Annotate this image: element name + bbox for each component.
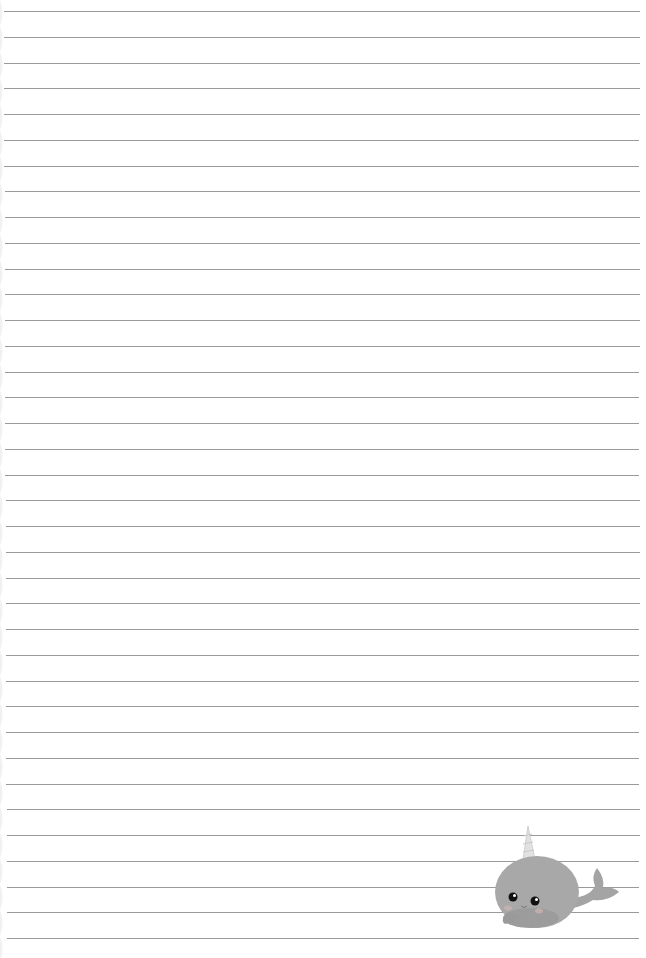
ruled-line	[6, 758, 639, 759]
narwhal-right-eye-icon	[531, 897, 540, 906]
ruled-line	[6, 629, 639, 630]
ruled-line	[4, 114, 640, 115]
narwhal-tail-icon	[573, 868, 619, 908]
ruled-line	[6, 526, 640, 527]
ruled-line	[7, 809, 640, 810]
ruled-line	[5, 243, 640, 244]
ruled-line	[6, 784, 639, 785]
ruled-line	[4, 11, 640, 12]
ruled-line	[5, 320, 640, 321]
ruled-lines	[0, 0, 646, 958]
ruled-line	[4, 63, 640, 64]
ruled-line	[4, 88, 640, 89]
ruled-line	[6, 552, 640, 553]
ruled-line	[5, 269, 640, 270]
ruled-line	[7, 938, 639, 939]
ruled-line	[4, 37, 640, 38]
narwhal-illustration	[495, 826, 625, 936]
ruled-line	[5, 397, 639, 398]
ruled-line	[4, 140, 639, 141]
ruled-line	[5, 475, 639, 476]
ruled-line	[5, 423, 639, 424]
ruled-line	[5, 217, 640, 218]
ruled-line	[4, 166, 639, 167]
ruled-line	[6, 578, 640, 579]
ruled-line	[6, 655, 639, 656]
ruled-line	[5, 191, 640, 192]
ruled-line	[5, 346, 640, 347]
ruled-line	[6, 706, 639, 707]
ruled-line	[6, 732, 639, 733]
ruled-line	[6, 500, 640, 501]
narwhal-left-eye-icon	[509, 893, 518, 902]
ruled-line	[6, 603, 640, 604]
ruled-line	[5, 449, 639, 450]
ruled-line	[5, 372, 639, 373]
ruled-line	[5, 294, 640, 295]
ruled-line	[6, 681, 639, 682]
